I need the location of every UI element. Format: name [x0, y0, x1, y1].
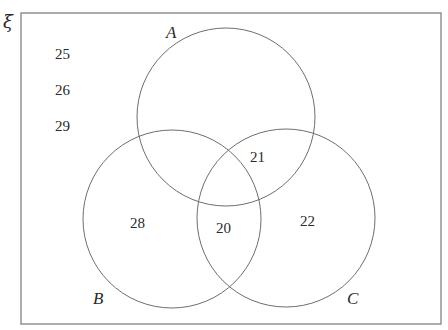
venn-diagram: ξ A B C 25 26 29 28 21 20 22	[0, 0, 448, 330]
region-b-and-c-value: 20	[216, 220, 231, 236]
outside-value: 29	[55, 118, 70, 134]
outside-value: 26	[55, 82, 71, 98]
universal-set-label: ξ	[3, 11, 14, 32]
set-c-circle	[197, 129, 375, 307]
region-b-only-value: 28	[130, 215, 145, 231]
outside-value: 25	[55, 46, 70, 62]
region-c-only-value: 22	[300, 213, 315, 229]
set-b-label: B	[93, 289, 104, 308]
set-a-circle	[137, 28, 315, 206]
set-b-circle	[83, 130, 261, 308]
region-a-and-c-value: 21	[250, 149, 265, 165]
universal-set-rectangle	[21, 13, 441, 324]
set-c-label: C	[347, 289, 359, 308]
set-a-label: A	[165, 23, 177, 42]
